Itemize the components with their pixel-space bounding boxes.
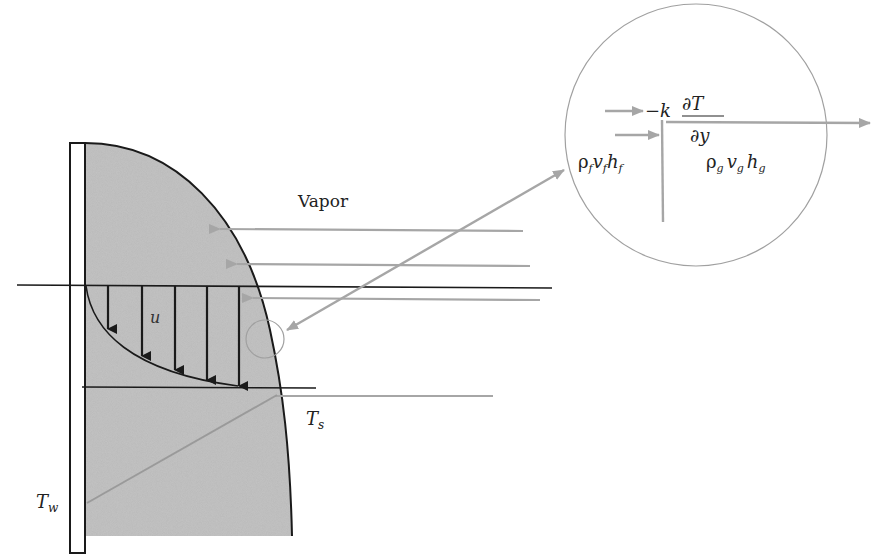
inset-control-volume: −k ∂T ∂y ρfvfhf ρgvghg (565, 4, 870, 266)
inset-interface-line (662, 120, 663, 222)
wall-temperature-label: Tw (36, 491, 59, 515)
vapor-arrow-1 (220, 229, 523, 231)
vapor-arrows (220, 229, 540, 300)
wall (70, 143, 85, 553)
conduction-numerator: ∂T (682, 93, 705, 114)
vapor-arrow-3 (253, 298, 540, 300)
liquid-film (85, 143, 292, 536)
conduction-denominator: ∂y (690, 125, 710, 146)
vapor-label: Vapor (297, 191, 349, 211)
inset-vapor-out-arrow (666, 122, 870, 123)
vapor-arrow-2 (237, 264, 530, 266)
condensation-diagram: u Vapor Ts Tw −k ∂T ∂y ρfvfhf (0, 0, 888, 559)
conduction-prefix: −k (645, 100, 671, 121)
velocity-label: u (150, 308, 160, 327)
vapor-energy-flux: ρgvghg (706, 151, 766, 175)
interface-temperature-label: Ts (306, 408, 324, 432)
liquid-energy-flux: ρfvfhf (578, 151, 625, 175)
lower-section-line (82, 387, 316, 388)
